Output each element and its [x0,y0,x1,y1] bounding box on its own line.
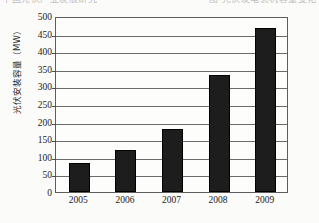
x-axis-tick-labels: 20052006200720082009 [55,195,288,211]
x-tick-label: 2006 [115,195,134,205]
bar [209,75,230,192]
y-tick-label: 150 [18,135,52,145]
bars-group [56,18,287,192]
y-tick-label: 100 [18,153,52,163]
bar [69,163,90,192]
y-tick-label: 0 [18,188,52,198]
bar [162,129,183,192]
bar-chart-figure: 光伏安装容量（MW） 05010015020025030035040045050… [0,0,319,223]
x-tick-label: 2007 [162,195,181,205]
bar [255,28,276,192]
y-tick-label: 450 [18,30,52,40]
bar [115,150,136,192]
plot-area [55,17,288,193]
y-tick-label: 350 [18,65,52,75]
x-tick-label: 2005 [69,195,88,205]
y-tick-label: 400 [18,47,52,57]
y-axis-tick-labels: 050100150200250300350400450500 [18,17,52,193]
y-tick-label: 50 [18,170,52,180]
x-tick-label: 2008 [209,195,228,205]
y-tick-label: 500 [18,12,52,22]
x-tick-label: 2009 [255,195,274,205]
scan-bottom-margin [0,211,319,223]
y-tick-label: 250 [18,100,52,110]
y-tick-label: 300 [18,82,52,92]
y-tick-label: 200 [18,118,52,128]
